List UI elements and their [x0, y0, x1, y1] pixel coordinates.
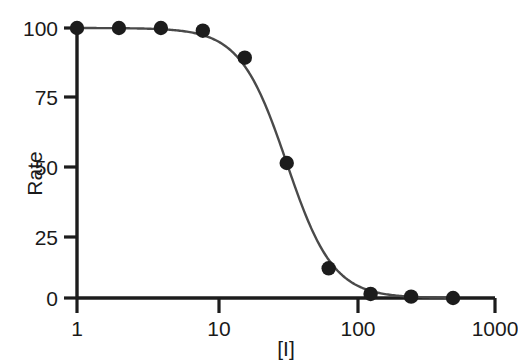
chart-container: 0 25 50 75 100 1 10 100 1000 Rate [I] [0, 0, 518, 364]
data-point [70, 21, 84, 35]
data-point [446, 291, 460, 305]
dose-response-curve [77, 28, 453, 298]
data-point [404, 289, 418, 303]
x-axis-title: [I] [277, 338, 295, 359]
x-tick-label-100: 100 [340, 318, 375, 339]
y-axis-title: Rate [24, 134, 45, 214]
data-point [363, 287, 377, 301]
y-tick-label-100: 100 [0, 18, 58, 39]
data-point [154, 21, 168, 35]
data-point-group [70, 21, 460, 305]
y-tick-label-75: 75 [0, 87, 58, 108]
data-point [321, 261, 335, 275]
x-axis-ticks [77, 298, 495, 313]
x-tick-label-10: 10 [207, 318, 230, 339]
y-axis-ticks [64, 28, 77, 298]
y-tick-label-25: 25 [0, 227, 58, 248]
data-point [112, 21, 126, 35]
y-tick-label-0: 0 [0, 288, 58, 309]
data-point [238, 51, 252, 65]
data-point [196, 24, 210, 38]
data-point [280, 156, 294, 170]
chart-plot-area [0, 0, 518, 364]
x-tick-label-1: 1 [71, 318, 83, 339]
x-tick-label-1000: 1000 [472, 318, 518, 339]
